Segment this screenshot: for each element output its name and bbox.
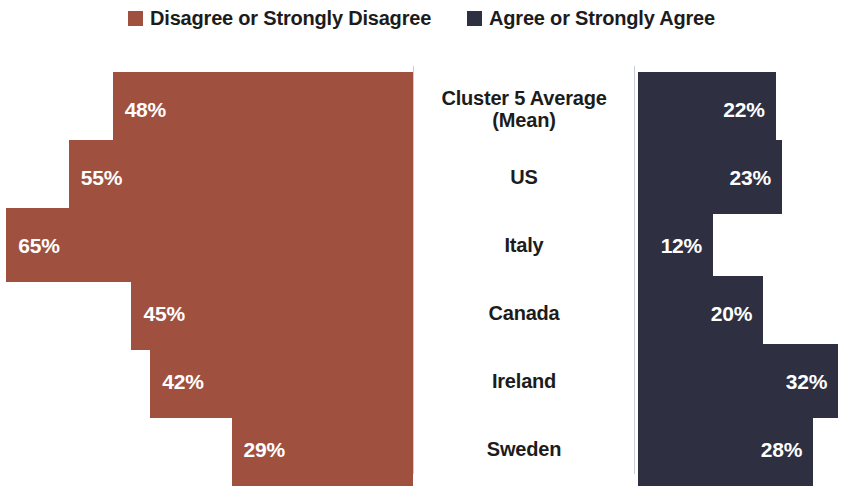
- legend-label-agree: Agree or Strongly Agree: [489, 8, 715, 28]
- chart-legend: Disagree or Strongly Disagree Agree or S…: [0, 0, 843, 36]
- bar-value-disagree-cluster-5-average-mean: 48%: [125, 99, 166, 120]
- left-panel: 48%: [0, 72, 413, 146]
- chart-row-us: 55%US23%: [0, 140, 843, 214]
- chart-row-canada: 45%Canada20%: [0, 276, 843, 350]
- category-label-cluster-5-average-mean: Cluster 5 Average (Mean): [441, 87, 606, 132]
- legend-swatch-disagree-icon: [128, 11, 143, 26]
- center-label-panel: Canada: [414, 276, 634, 350]
- bar-disagree-sweden[interactable]: 29%: [232, 412, 413, 486]
- bar-value-agree-us: 23%: [729, 167, 770, 188]
- center-label-panel: Ireland: [414, 344, 634, 418]
- center-label-panel: Cluster 5 Average (Mean): [414, 72, 634, 146]
- left-panel: 42%: [0, 344, 413, 418]
- left-panel: 55%: [0, 140, 413, 214]
- chart-row-cluster-5-average-mean: 48%Cluster 5 Average (Mean)22%: [0, 72, 843, 146]
- bar-agree-cluster-5-average-mean[interactable]: 22%: [638, 72, 776, 146]
- legend-label-disagree: Disagree or Strongly Disagree: [150, 8, 431, 28]
- bar-disagree-ireland[interactable]: 42%: [150, 344, 413, 418]
- category-label-ireland: Ireland: [492, 370, 556, 392]
- bar-agree-canada[interactable]: 20%: [638, 276, 763, 350]
- right-panel: 23%: [638, 140, 843, 214]
- bar-value-disagree-us: 55%: [81, 167, 122, 188]
- center-label-panel: Sweden: [414, 412, 634, 486]
- bar-agree-us[interactable]: 23%: [638, 140, 782, 214]
- right-panel: 32%: [638, 344, 843, 418]
- right-panel: 28%: [638, 412, 843, 486]
- bar-disagree-us[interactable]: 55%: [69, 140, 413, 214]
- left-panel: 65%: [0, 208, 413, 282]
- chart-row-ireland: 42%Ireland32%: [0, 344, 843, 418]
- bar-agree-sweden[interactable]: 28%: [638, 412, 813, 486]
- bar-value-disagree-canada: 45%: [143, 303, 184, 324]
- category-label-canada: Canada: [488, 302, 559, 324]
- category-label-sweden: Sweden: [487, 438, 561, 460]
- category-label-italy: Italy: [504, 234, 543, 256]
- plot-area: 48%Cluster 5 Average (Mean)22%55%US23%65…: [0, 66, 843, 474]
- bar-value-agree-ireland: 32%: [786, 371, 827, 392]
- center-label-panel: Italy: [414, 208, 634, 282]
- right-panel: 20%: [638, 276, 843, 350]
- chart-row-sweden: 29%Sweden28%: [0, 412, 843, 486]
- legend-entry-disagree: Disagree or Strongly Disagree: [128, 8, 431, 28]
- bar-disagree-italy[interactable]: 65%: [6, 208, 413, 282]
- left-panel: 45%: [0, 276, 413, 350]
- chart-row-italy: 65%Italy12%: [0, 208, 843, 282]
- bar-value-agree-cluster-5-average-mean: 22%: [723, 99, 764, 120]
- bar-value-agree-canada: 20%: [711, 303, 752, 324]
- category-label-us: US: [510, 166, 537, 188]
- bar-agree-ireland[interactable]: 32%: [638, 344, 838, 418]
- bar-value-agree-sweden: 28%: [761, 439, 802, 460]
- left-panel: 29%: [0, 412, 413, 486]
- bar-value-agree-italy: 12%: [661, 235, 702, 256]
- bar-disagree-canada[interactable]: 45%: [131, 276, 413, 350]
- legend-entry-agree: Agree or Strongly Agree: [467, 8, 715, 28]
- bar-agree-italy[interactable]: 12%: [638, 208, 713, 282]
- right-panel: 12%: [638, 208, 843, 282]
- bar-disagree-cluster-5-average-mean[interactable]: 48%: [113, 72, 413, 146]
- bar-value-disagree-sweden: 29%: [244, 439, 285, 460]
- bar-value-disagree-italy: 65%: [18, 235, 59, 256]
- center-label-panel: US: [414, 140, 634, 214]
- right-panel: 22%: [638, 72, 843, 146]
- bar-value-disagree-ireland: 42%: [162, 371, 203, 392]
- legend-swatch-agree-icon: [467, 11, 482, 26]
